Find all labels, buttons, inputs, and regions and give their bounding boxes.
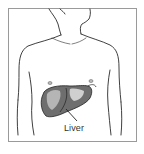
right-nipple xyxy=(89,80,93,83)
torso-left-side xyxy=(29,72,34,135)
ear-outline xyxy=(60,9,65,14)
chin-neck-right-outline xyxy=(80,9,90,34)
left-nipple xyxy=(48,82,52,85)
torso-right-side xyxy=(108,70,111,135)
neck-left-outline xyxy=(49,9,61,35)
label-pointer-line xyxy=(66,109,77,121)
liver-label: Liver xyxy=(64,123,84,133)
